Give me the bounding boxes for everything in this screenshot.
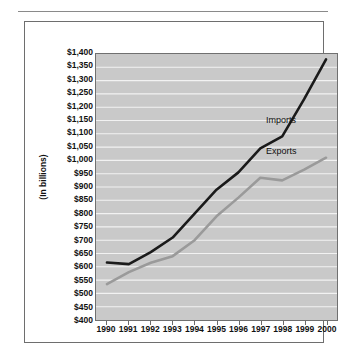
y-axis-tick-label: $700	[45, 236, 93, 245]
y-axis-tick-label: $400	[45, 316, 93, 325]
series-line-imports	[107, 59, 326, 264]
y-axis-tick-label: $850	[45, 195, 93, 204]
chart-figure: (In billions) $1,400$1,350$1,300$1,250$1…	[0, 0, 345, 358]
y-axis-tick-label: $550	[45, 276, 93, 285]
plot-area: ImportsExports	[95, 53, 338, 321]
y-axis-tick-label: $1,200	[45, 102, 93, 111]
top-divider-rule	[18, 11, 328, 12]
y-axis-tick-label: $1,400	[45, 48, 93, 57]
chart-frame: (In billions) $1,400$1,350$1,300$1,250$1…	[24, 21, 324, 343]
y-axis-tick-label: $650	[45, 249, 93, 258]
y-axis-tick-label: $1,050	[45, 142, 93, 151]
y-axis-tick-label: $1,250	[45, 88, 93, 97]
y-axis-tick-label: $800	[45, 209, 93, 218]
series-label-imports: Imports	[266, 115, 296, 125]
x-axis-tick-labels: 1990199119921993199419951996199719981999…	[95, 324, 338, 338]
y-axis-tick-label: $750	[45, 222, 93, 231]
x-axis-tick-label: 2000	[310, 324, 344, 334]
y-axis-tick-label: $900	[45, 182, 93, 191]
series-line-exports	[107, 158, 326, 284]
y-axis-tick-label: $1,350	[45, 61, 93, 70]
series-lines	[96, 54, 337, 320]
y-axis-tick-label: $1,150	[45, 115, 93, 124]
y-axis-tick-labels: $1,400$1,350$1,300$1,250$1,200$1,150$1,1…	[43, 53, 93, 321]
y-axis-tick-label: $500	[45, 289, 93, 298]
y-axis-tick-label: $1,300	[45, 75, 93, 84]
y-axis-tick-label: $1,100	[45, 128, 93, 137]
y-axis-tick-label: $950	[45, 169, 93, 178]
series-label-exports: Exports	[266, 146, 297, 156]
y-axis-tick-label: $600	[45, 262, 93, 271]
y-axis-tick-label: $1,000	[45, 155, 93, 164]
y-axis-tick-label: $450	[45, 303, 93, 312]
